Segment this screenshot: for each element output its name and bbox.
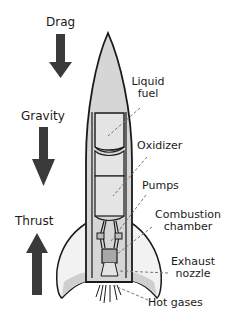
- oxidizer-tank: [95, 151, 124, 221]
- oxidizer-label: Oxidizer: [137, 140, 182, 152]
- combustion-chamber-label: Combustion chamber: [151, 209, 225, 233]
- drag-arrow-icon: [49, 34, 72, 78]
- exhaust-nozzle-label: Exhaust nozzle: [167, 256, 219, 280]
- drag-label: Drag: [46, 16, 75, 28]
- combustion-chamber: [102, 249, 117, 263]
- gravity-label: Gravity: [21, 110, 65, 122]
- thrust-label: Thrust: [15, 215, 53, 227]
- hot-gases-lines: [96, 285, 121, 303]
- exhaust-nozzle: [101, 263, 118, 276]
- hot-gases-label: Hot gases: [148, 297, 203, 309]
- pumps-label: Pumps: [142, 180, 179, 192]
- gravity-arrow-icon: [32, 127, 55, 186]
- liquid-fuel-label: Liquid fuel: [128, 76, 168, 100]
- thrust-arrow-icon: [26, 233, 48, 295]
- fuel-tank: [95, 113, 124, 152]
- rocket-diagram: Drag Gravity Thrust Liquid fuel Oxidizer…: [0, 0, 235, 319]
